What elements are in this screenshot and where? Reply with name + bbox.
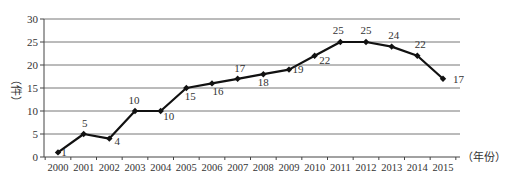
diamond-marker: [234, 76, 240, 82]
y-axis-ticks: 051015202530: [27, 13, 39, 163]
x-tick-label: 2006: [202, 162, 223, 173]
data-label: 4: [115, 135, 121, 147]
y-axis-label: （件）: [10, 74, 22, 107]
x-tick-label: 2003: [125, 162, 146, 173]
x-tick-label: 2009: [279, 162, 300, 173]
x-tick-label: 2005: [176, 162, 197, 173]
x-tick-label: 2002: [99, 162, 120, 173]
data-label: 18: [258, 76, 270, 88]
y-tick-label: 20: [27, 59, 39, 71]
x-tick-label: 2012: [356, 162, 377, 173]
x-tick-label: 2007: [227, 162, 248, 173]
line-chart: 051015202530 200020012002200320042005200…: [0, 0, 509, 186]
data-label: 15: [185, 90, 197, 102]
data-label: 17: [453, 73, 465, 85]
data-label: 22: [415, 38, 426, 50]
data-markers: [55, 39, 446, 156]
data-label: 10: [129, 94, 141, 106]
data-label: 10: [163, 110, 175, 122]
x-tick-label: 2008: [253, 162, 274, 173]
data-label: 22: [319, 54, 330, 66]
x-tick-label: 2004: [150, 162, 172, 173]
data-label: 25: [361, 24, 373, 36]
x-tick-label: 2013: [381, 162, 402, 173]
data-labels: 15410101516171819222525242217: [61, 24, 464, 158]
diamond-marker: [388, 43, 394, 49]
y-tick-label: 15: [27, 82, 39, 94]
y-tick-label: 25: [27, 36, 39, 48]
x-tick-label: 2014: [407, 162, 429, 173]
y-tick-label: 5: [33, 128, 39, 140]
x-axis-label: （年份）: [462, 150, 506, 163]
data-label: 17: [234, 62, 246, 74]
y-tick-label: 0: [33, 151, 39, 163]
x-tick-label: 2011: [330, 162, 351, 173]
x-tick-label: 2000: [48, 162, 69, 173]
data-label: 5: [82, 117, 88, 129]
x-axis-ticks: 2000200120022003200420052006200720082009…: [45, 157, 456, 173]
data-label: 19: [293, 63, 305, 75]
data-label: 25: [333, 24, 345, 36]
data-label: 24: [388, 29, 400, 41]
y-tick-label: 10: [27, 105, 39, 117]
x-tick-label: 2001: [73, 162, 94, 173]
y-tick-label: 30: [27, 13, 39, 25]
x-tick-label: 2010: [304, 162, 325, 173]
data-label: 1: [61, 146, 67, 158]
x-tick-label: 2015: [433, 162, 454, 173]
diamond-marker: [363, 39, 369, 45]
data-label: 16: [213, 85, 225, 97]
